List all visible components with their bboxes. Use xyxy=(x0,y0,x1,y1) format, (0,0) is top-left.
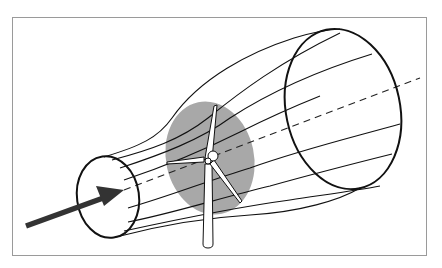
stream-lines xyxy=(104,29,400,237)
turbine-tower xyxy=(203,164,213,248)
stream-tube-diagram xyxy=(0,0,442,268)
turbine-hub xyxy=(205,158,211,164)
downstream-section xyxy=(270,18,415,200)
